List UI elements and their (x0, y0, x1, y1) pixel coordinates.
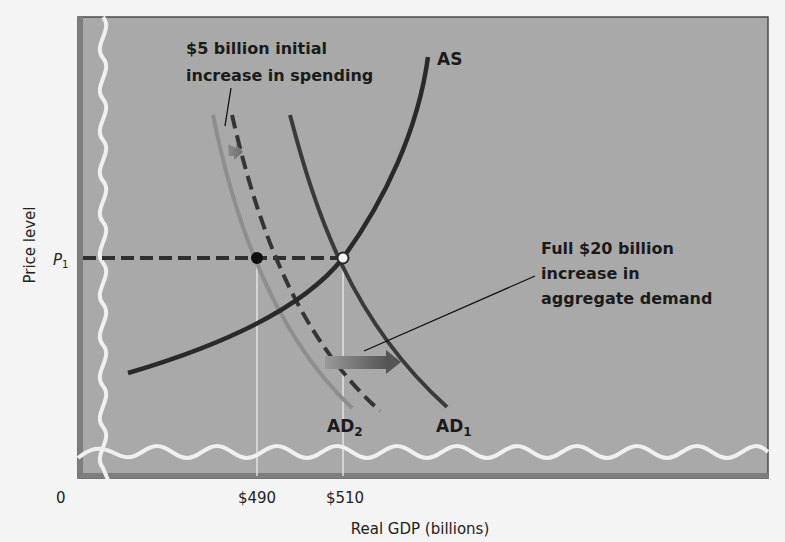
ad1-label-main: AD (436, 416, 463, 436)
ad2-label-sub: 2 (354, 425, 362, 439)
y-tick-p1-sub: 1 (62, 259, 68, 270)
as-label: AS (437, 49, 462, 69)
ad2-label-main: AD (327, 416, 354, 436)
ad-as-chart: $5 billion initial increase in spending … (0, 0, 785, 542)
equilibrium-point-510-p1 (338, 253, 349, 264)
y-tick-p1: P1 (53, 251, 68, 270)
point-490-p1 (251, 252, 263, 264)
annotation-initial-line2: increase in spending (186, 66, 373, 85)
y-axis-label: Price level (21, 206, 39, 283)
annotation-full-line1: Full $20 billion (541, 239, 674, 258)
x-tick-510: $510 (326, 489, 364, 507)
ad1-label-sub: 1 (463, 425, 471, 439)
annotation-full-line3: aggregate demand (541, 289, 712, 308)
x-axis-label: Real GDP (billions) (351, 520, 490, 538)
x-tick-490: $490 (238, 489, 276, 507)
annotation-full-line2: increase in (541, 264, 640, 283)
x-tick-0: 0 (56, 489, 66, 507)
annotation-initial-line1: $5 billion initial (186, 39, 327, 58)
